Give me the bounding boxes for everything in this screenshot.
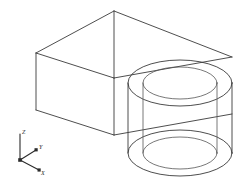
ucs-y-axis-label: Y [39,144,43,150]
ucs-x-axis-label: X [40,170,45,176]
box-edge-bottom-left-front [36,110,114,135]
ucs-y-axis-marker [35,148,38,151]
cad-viewport[interactable]: Z Y X [0,0,235,182]
ucs-origin-marker [18,158,22,162]
inner-cylinder [143,67,217,169]
inner-cylinder-top-ellipse [143,67,217,99]
ucs-y-axis-line [20,150,36,160]
box-edge-top-back-left [36,11,114,53]
ucs-z-axis-label: Z [22,129,26,135]
isometric-wireframe-drawing: Z Y X [0,0,235,182]
box-edge-top-back-right [114,11,232,57]
box-edge-bottom-front-right [114,114,232,135]
box-edge-top-left-front [36,53,114,78]
ucs-x-axis-line [20,160,39,170]
rectangular-block [36,11,232,135]
outer-cylinder [128,60,232,176]
inner-cylinder-bottom-ellipse [143,137,217,169]
ucs-axis-indicator[interactable]: Z Y X [18,129,45,176]
